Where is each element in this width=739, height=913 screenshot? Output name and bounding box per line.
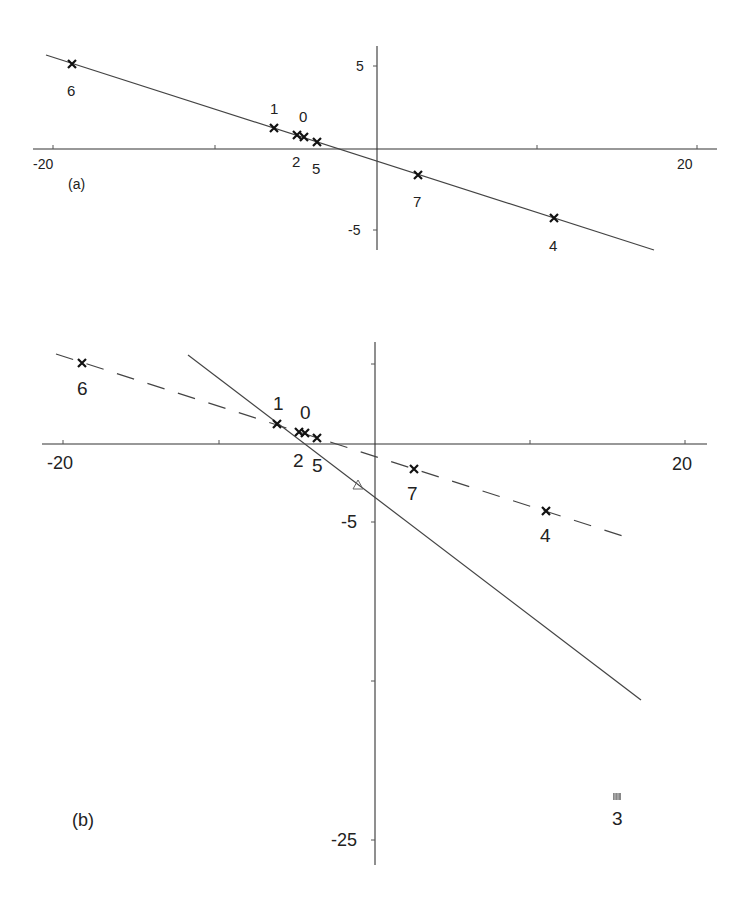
panel-b-point-6 bbox=[78, 359, 86, 367]
panel-a-point-label: 1 bbox=[270, 100, 278, 117]
panel-a-point-label: 0 bbox=[299, 108, 307, 125]
figure-canvas: -20 20 5 -5 6 1 0 2 5 7 4 (a) bbox=[0, 0, 739, 913]
panel-b-point-4 bbox=[542, 507, 550, 515]
panel-a-fit-line bbox=[46, 55, 654, 250]
panel-b-point-label: 3 bbox=[612, 808, 623, 829]
panel-b-y-tick-label: -5 bbox=[341, 512, 357, 532]
panel-a-point-label: 2 bbox=[292, 153, 300, 170]
panel-a-point-label: 4 bbox=[549, 237, 557, 254]
panel-b-x-tick-label: 20 bbox=[672, 454, 692, 474]
panel-b-solid-fit-line bbox=[188, 355, 641, 700]
panel-a-point-label: 6 bbox=[67, 82, 75, 99]
panel-b: -20 20 -5 -25 6 1 0 2 5 7 4 3 (b) bbox=[42, 342, 707, 865]
panel-b-dashed-fit-line bbox=[56, 354, 626, 537]
panel-a-point-1 bbox=[270, 124, 278, 132]
panel-b-point-7 bbox=[410, 465, 418, 473]
panel-a-label: (a) bbox=[68, 176, 85, 192]
panel-a-x-tick-label: -20 bbox=[33, 156, 53, 172]
panel-b-point-label: 4 bbox=[540, 525, 551, 546]
panel-a-x-tick-label: 20 bbox=[677, 156, 693, 172]
panel-a-point-label: 5 bbox=[312, 160, 320, 177]
panel-b-x-tick-label: -20 bbox=[47, 453, 73, 473]
panel-b-point-label: 6 bbox=[77, 378, 88, 399]
panel-a-point-4 bbox=[550, 214, 558, 222]
panel-b-point-3 bbox=[613, 793, 621, 800]
panel-b-y-tick-label: -25 bbox=[331, 830, 357, 850]
panel-b-point-label: 1 bbox=[273, 393, 284, 414]
panel-b-point-label: 5 bbox=[312, 455, 323, 476]
panel-a: -20 20 5 -5 6 1 0 2 5 7 4 (a) bbox=[33, 46, 717, 254]
panel-b-point-label: 2 bbox=[293, 450, 304, 471]
panel-a-point-5 bbox=[313, 138, 321, 146]
panel-a-point-label: 7 bbox=[413, 193, 421, 210]
panel-b-point-label: 7 bbox=[407, 483, 418, 504]
panel-a-y-tick-label: 5 bbox=[356, 58, 364, 74]
panel-a-y-tick-label: -5 bbox=[348, 222, 361, 238]
panel-b-label: (b) bbox=[72, 810, 94, 830]
panel-b-point-5 bbox=[313, 434, 321, 442]
panel-b-point-label: 0 bbox=[300, 402, 311, 423]
